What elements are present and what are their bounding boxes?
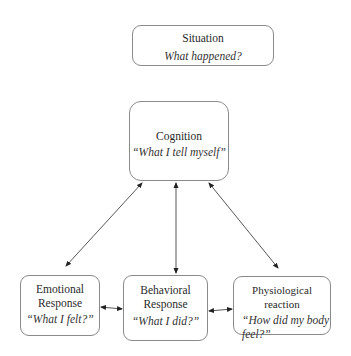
situation-title: Situation [133,31,273,45]
emotional-title-line2: Response [21,296,99,310]
arrow-cognition-physiological [209,183,278,268]
arrow-behavioral-physiological [209,309,232,311]
arrow-cognition-emotional [66,183,142,266]
physiological-reaction-box: Physiological reaction “How did my body … [233,276,331,335]
behavioral-response-box: Behavioral Response “What I did?” [123,275,208,341]
physiological-subtitle-line2: feel?” [234,327,330,341]
physiological-subtitle-line1: “How did my body [234,313,330,327]
cognition-subtitle: “What I tell myself” [130,145,228,159]
emotional-title-line1: Emotional [21,282,99,296]
emotional-response-box: Emotional Response “What I felt?” [20,275,100,336]
behavioral-title-line2: Response [124,297,207,311]
behavioral-subtitle: “What I did?” [124,314,207,328]
cognition-title: Cognition [130,129,228,143]
physiological-title: Physiological reaction [234,283,330,311]
situation-subtitle: What happened? [133,49,273,63]
cognition-box: Cognition “What I tell myself” [129,101,229,181]
arrow-emotional-behavioral [101,307,122,309]
emotional-subtitle: “What I felt?” [21,312,99,326]
behavioral-title-line1: Behavioral [124,283,207,297]
situation-box: Situation What happened? [132,25,274,66]
